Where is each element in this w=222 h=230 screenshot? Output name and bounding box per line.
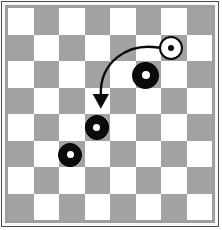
pieces-overlay [8,8,212,220]
black-piece-2-center-pip [93,124,100,131]
white-piece-1-center-pip [168,45,174,51]
white-piece-1[interactable] [159,36,183,60]
black-piece-1-center-pip [142,71,150,79]
black-piece-3-center-pip [67,151,74,158]
black-piece-3[interactable] [58,143,82,167]
black-piece-2[interactable] [85,115,109,139]
diagram-canvas: Checkers board move diagram [0,0,222,230]
black-piece-1[interactable] [132,62,159,89]
